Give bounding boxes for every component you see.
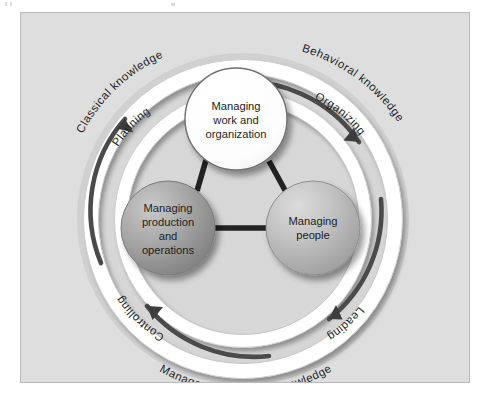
- node-label-line: production: [142, 216, 194, 228]
- node-managing-production-and-operations[interactable]: Managing production and operations: [121, 181, 215, 275]
- figure-panel: Managing production and operations Manag…: [20, 12, 470, 383]
- node-label-line: Managing: [143, 202, 192, 214]
- node-label-line: organization: [206, 128, 267, 140]
- node-label-line: work and: [212, 114, 258, 126]
- scan-artifact: [171, 3, 175, 6]
- scan-artifact: [5, 2, 7, 6]
- node-label-line: and: [159, 230, 178, 242]
- node-label-line: operations: [142, 244, 195, 256]
- node-managing-work-and-organization[interactable]: Managing work and organization: [185, 68, 287, 170]
- management-framework-diagram: Managing production and operations Manag…: [21, 13, 470, 383]
- node-label-line: Managing: [211, 100, 260, 112]
- node-label-line: people: [296, 229, 330, 241]
- scan-artifact: [10, 2, 12, 6]
- node-managing-people[interactable]: Managing people: [266, 181, 360, 275]
- node-label-line: Managing: [288, 215, 337, 227]
